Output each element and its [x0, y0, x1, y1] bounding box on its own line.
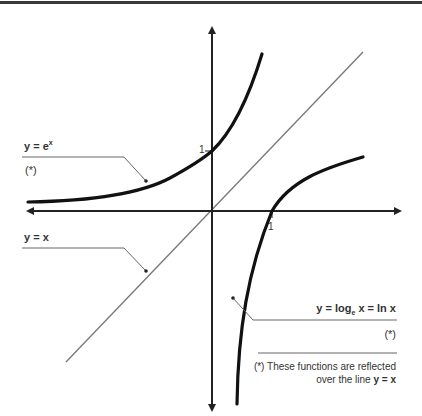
footnote-line-2-text: over the line — [316, 374, 373, 385]
log-label-prefix: y = log — [316, 302, 351, 314]
exp-label-superscript: x — [49, 139, 53, 146]
log-note: (*) — [384, 328, 396, 340]
identity-label: y = x — [24, 231, 49, 243]
exp-label: y = ex — [24, 140, 53, 152]
footnote-line-2-bold: y = x — [373, 374, 396, 385]
identity-leader-line — [22, 248, 146, 271]
log-label: y = loge x = ln x — [316, 302, 396, 314]
x-tick-label-1: 1 — [268, 221, 274, 232]
footnote: (*) These functions are reflected over t… — [254, 360, 396, 386]
exp-label-text: y = e — [24, 140, 49, 152]
exp-leader-dot — [144, 179, 148, 183]
identity-line — [66, 52, 363, 362]
exp-leader-line — [22, 157, 146, 181]
identity-leader-dot — [144, 269, 148, 273]
exp-note: (*) — [25, 164, 37, 176]
y-tick-label-1: 1 — [199, 144, 205, 155]
log-leader-dot — [231, 296, 235, 300]
footnote-line-2: over the line y = x — [254, 373, 396, 386]
log-label-suffix: x = ln x — [355, 302, 396, 314]
footnote-line-1: (*) These functions are reflected — [254, 360, 396, 373]
log-label-subscript: e — [351, 309, 355, 316]
function-plot — [0, 0, 422, 416]
